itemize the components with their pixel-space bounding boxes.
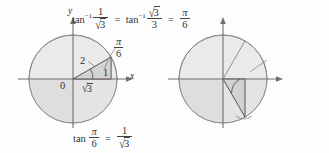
circle-shaded-quadrant bbox=[29, 79, 73, 123]
equation-bottom-left: tan π6 = 1√3 bbox=[73, 125, 133, 149]
angle-label-left: π6 bbox=[113, 36, 124, 59]
origin-label-left: 0 bbox=[60, 81, 65, 92]
panel-arctan-negative-root-three: tan−1(−√3) = −π3 tan(−π3) = −√3 y x 0 1 … bbox=[164, 0, 329, 153]
x-axis-arrow bbox=[276, 76, 283, 82]
adjacent-label-left: √3 bbox=[82, 83, 93, 95]
right-diagram-svg bbox=[164, 0, 329, 153]
trigonometry-figure: tan−11√3 = tan−1√33 = π6 tan π6 = 1√3 y … bbox=[0, 0, 329, 153]
circle-shaded-quadrant bbox=[179, 79, 223, 123]
y-axis-arrow bbox=[220, 17, 226, 24]
circle-shaded-lower-right bbox=[73, 79, 117, 123]
opposite-label-left: 1 bbox=[103, 68, 108, 79]
axis-label-y-left: y bbox=[68, 7, 72, 17]
axis-label-x-left: x bbox=[130, 72, 134, 82]
panel-arctan-one-over-root-three: tan−11√3 = tan−1√33 = π6 tan π6 = 1√3 y … bbox=[0, 0, 165, 153]
hypotenuse-label-left: 2 bbox=[80, 56, 85, 67]
